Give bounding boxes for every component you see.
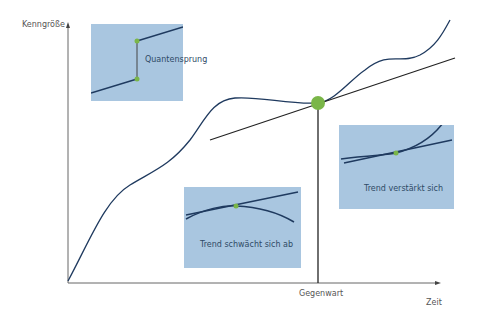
trend-strengthens-graphic: [339, 125, 454, 209]
trend-weakens-graphic: [184, 187, 301, 268]
present-point: [311, 96, 325, 110]
inset-trend-strengthens: Trend verstärkt sich: [339, 125, 454, 209]
y-axis-label: Kenngröße: [22, 20, 65, 29]
x-axis-label: Zeit: [426, 298, 442, 307]
y-axis-arrow-icon: [66, 22, 70, 28]
inset-trend-weakens: Trend schwächt sich ab: [184, 187, 301, 268]
present-label: Gegenwart: [299, 289, 343, 298]
x-axis-arrow-icon: [435, 281, 441, 285]
inset-quantum-leap: Quantensprung: [91, 24, 183, 101]
inset-label-trend-strengthens: Trend verstärkt sich: [364, 184, 443, 193]
inset-label-quantum-leap: Quantensprung: [145, 55, 207, 64]
inset-label-trend-weakens: Trend schwächt sich ab: [200, 240, 293, 249]
